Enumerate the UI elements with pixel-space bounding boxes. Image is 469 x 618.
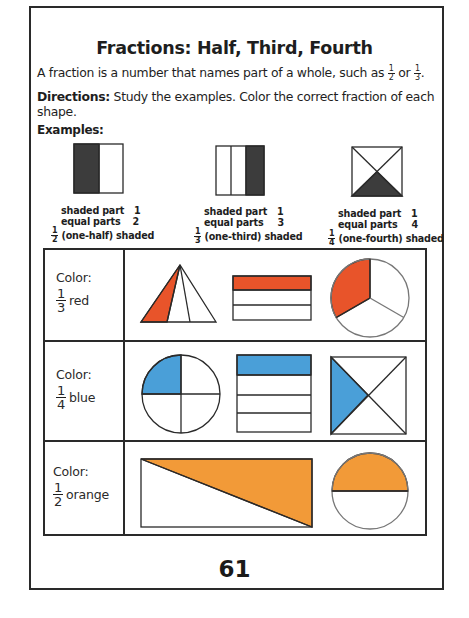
shapes-layer — [0, 0, 469, 618]
page-number: 61 — [0, 556, 469, 582]
example-rectangle-thirds — [216, 146, 264, 195]
orange-rectangle-halves[interactable] — [141, 459, 312, 527]
red-rectangle-thirds[interactable] — [233, 276, 311, 320]
example-square-halves — [74, 144, 123, 193]
red-triangle-thirds[interactable] — [141, 265, 216, 322]
blue-circle-quarters[interactable] — [142, 355, 220, 433]
example-square-fourths — [352, 147, 402, 196]
orange-circle-halves[interactable] — [332, 453, 408, 529]
red-circle-thirds[interactable] — [331, 259, 409, 337]
blue-rectangle-fourths[interactable] — [237, 355, 311, 432]
blue-square-fourths[interactable] — [331, 357, 406, 434]
